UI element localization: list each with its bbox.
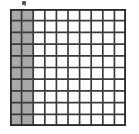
- grid-cell-empty: [68, 79, 80, 91]
- grid-cell-empty: [103, 32, 115, 44]
- grid-cell-empty: [56, 44, 68, 56]
- grid-cell-empty: [80, 32, 92, 44]
- grid-cell-empty: [68, 103, 80, 115]
- grid-cell-empty: [68, 56, 80, 68]
- grid-cell-empty: [80, 56, 92, 68]
- grid-cell-empty: [56, 79, 68, 91]
- grid-cell-empty: [56, 91, 68, 103]
- grid-cell-empty: [56, 103, 68, 115]
- grid-cell-empty: [45, 44, 57, 56]
- grid-cell-empty: [45, 21, 57, 33]
- grid-cell-empty: [91, 79, 103, 91]
- grid-cell-empty: [45, 68, 57, 80]
- grid-cell-shaded: [22, 44, 34, 56]
- grid-cell-empty: [45, 32, 57, 44]
- grid-cell-empty: [80, 21, 92, 33]
- grid-cell-empty: [33, 21, 45, 33]
- grid-cell-empty: [33, 79, 45, 91]
- grid-cell-empty: [103, 44, 115, 56]
- grid-cell-empty: [45, 91, 57, 103]
- grid-cell-empty: [91, 32, 103, 44]
- grid-cell-empty: [68, 68, 80, 80]
- hundredths-grid: [10, 9, 126, 126]
- grid-cell-empty: [103, 91, 115, 103]
- grid-cell-shaded: [22, 21, 34, 33]
- grid-cell-empty: [91, 21, 103, 33]
- grid-cell-empty: [80, 103, 92, 115]
- grid-cell-empty: [45, 79, 57, 91]
- grid-cell-empty: [33, 56, 45, 68]
- ink-speck-artifact-icon: [22, 1, 26, 5]
- grid-cell-empty: [33, 32, 45, 44]
- grid-cell-shaded: [22, 103, 34, 115]
- grid-cell-empty: [68, 21, 80, 33]
- grid-cell-empty: [80, 68, 92, 80]
- grid-cell-empty: [68, 44, 80, 56]
- grid-cell-empty: [91, 44, 103, 56]
- grid-cell-empty: [45, 56, 57, 68]
- grid-cell-empty: [80, 79, 92, 91]
- grid-cell-empty: [33, 103, 45, 115]
- grid-cell-empty: [91, 56, 103, 68]
- grid-cell-empty: [45, 103, 57, 115]
- grid-cell-empty: [68, 91, 80, 103]
- grid-cell-empty: [80, 44, 92, 56]
- grid-cell-empty: [56, 56, 68, 68]
- grid-cell-empty: [80, 91, 92, 103]
- figure-root: [0, 0, 139, 134]
- grid-cell-shaded: [22, 32, 34, 44]
- grid-cell-shaded: [22, 79, 34, 91]
- grid-cell-empty: [33, 91, 45, 103]
- grid-cell-empty: [103, 56, 115, 68]
- grid-cell-empty: [68, 32, 80, 44]
- grid-cell-empty: [103, 103, 115, 115]
- grid-cell-shaded: [22, 56, 34, 68]
- grid-cell-shaded: [22, 68, 34, 80]
- grid-cell-empty: [56, 21, 68, 33]
- grid-cell-empty: [103, 21, 115, 33]
- grid-cell-empty: [33, 44, 45, 56]
- grid-cell-empty: [103, 68, 115, 80]
- grid-cell-empty: [56, 32, 68, 44]
- grid-cell-empty: [91, 68, 103, 80]
- grid-cell-empty: [56, 68, 68, 80]
- grid-cell-empty: [91, 91, 103, 103]
- grid-svg: [10, 9, 126, 126]
- grid-cell-empty: [103, 79, 115, 91]
- grid-cell-empty: [33, 68, 45, 80]
- grid-cell-empty: [91, 103, 103, 115]
- grid-cell-shaded: [22, 91, 34, 103]
